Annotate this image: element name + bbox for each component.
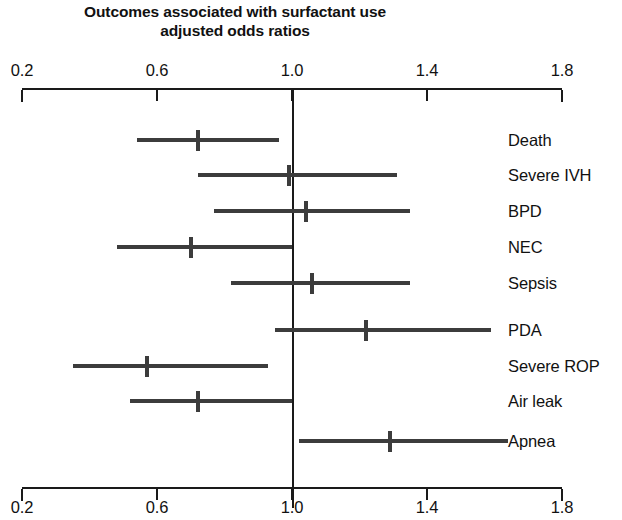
row-label-nec: NEC bbox=[508, 239, 543, 256]
confidence-interval-bar-apnea bbox=[299, 439, 508, 443]
bottom-axis-tick-label-0-2: 0.2 bbox=[0, 499, 44, 516]
forest-plot-figure: Outcomes associated with surfactant use … bbox=[0, 0, 622, 520]
row-label-sepsis: Sepsis bbox=[508, 275, 557, 292]
confidence-interval-bar-air-leak bbox=[130, 399, 292, 403]
top-axis-tick-0-2 bbox=[21, 90, 23, 102]
row-label-pda: PDA bbox=[508, 322, 542, 339]
bottom-axis-tick-label-1-8: 1.8 bbox=[540, 499, 584, 516]
point-estimate-marker-severe-rop bbox=[145, 356, 149, 377]
top-axis-tick-0-6 bbox=[156, 90, 158, 101]
point-estimate-marker-death bbox=[196, 130, 200, 151]
point-estimate-marker-nec bbox=[189, 237, 193, 258]
point-estimate-marker-bpd bbox=[304, 201, 308, 222]
top-axis-tick-1-8 bbox=[561, 90, 563, 102]
chart-title-line-1: Outcomes associated with surfactant use bbox=[0, 2, 470, 21]
row-label-death: Death bbox=[508, 132, 552, 149]
point-estimate-marker-pda bbox=[364, 320, 368, 341]
confidence-interval-bar-sepsis bbox=[231, 281, 410, 285]
chart-title-line-2: adjusted odds ratios bbox=[0, 21, 470, 40]
top-axis-tick-label-1-8: 1.8 bbox=[540, 62, 584, 79]
row-label-air-leak: Air leak bbox=[508, 393, 562, 410]
bottom-axis-tick-label-1: 1.0 bbox=[270, 499, 314, 516]
confidence-interval-bar-pda bbox=[275, 328, 491, 332]
confidence-interval-bar-bpd bbox=[214, 209, 410, 213]
row-label-bpd: BPD bbox=[508, 203, 542, 220]
confidence-interval-bar-nec bbox=[117, 245, 293, 249]
confidence-interval-bar-death bbox=[137, 138, 279, 142]
bottom-axis-tick-label-1-4: 1.4 bbox=[405, 499, 449, 516]
top-axis-tick-label-1-4: 1.4 bbox=[405, 62, 449, 79]
top-axis-tick-label-0-2: 0.2 bbox=[0, 62, 44, 79]
point-estimate-marker-severe-ivh bbox=[287, 165, 291, 186]
row-label-apnea: Apnea bbox=[508, 433, 555, 450]
confidence-interval-bar-severe-rop bbox=[73, 364, 269, 368]
top-axis-tick-label-0-6: 0.6 bbox=[135, 62, 179, 79]
confidence-interval-bar-severe-ivh bbox=[198, 173, 397, 177]
point-estimate-marker-air-leak bbox=[196, 391, 200, 412]
top-axis-tick-label-1: 1.0 bbox=[270, 62, 314, 79]
chart-title: Outcomes associated with surfactant use … bbox=[0, 2, 470, 40]
row-label-severe-ivh: Severe IVH bbox=[508, 167, 591, 184]
bottom-axis-tick-label-0-6: 0.6 bbox=[135, 499, 179, 516]
reference-line-null bbox=[292, 88, 294, 508]
point-estimate-marker-apnea bbox=[388, 431, 392, 452]
point-estimate-marker-sepsis bbox=[310, 273, 314, 294]
row-label-severe-rop: Severe ROP bbox=[508, 358, 600, 375]
top-axis-tick-1-4 bbox=[426, 90, 428, 101]
